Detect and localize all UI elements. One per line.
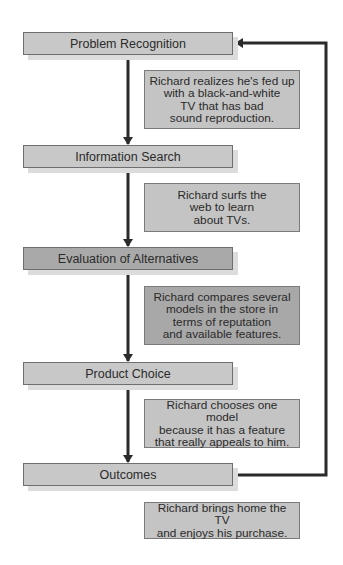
description-product-choice: Richard chooses one model because it has… bbox=[144, 399, 300, 448]
step-problem-recognition: Problem Recognition bbox=[23, 32, 233, 55]
step-information-search: Information Search bbox=[23, 145, 233, 168]
description-outcomes: Richard brings home the TV and enjoys hi… bbox=[144, 502, 300, 539]
description-problem-recognition: Richard realizes he's fed up with a blac… bbox=[144, 70, 300, 129]
description-information-search: Richard surfs the web to learn about TVs… bbox=[144, 183, 300, 232]
step-evaluation-of-alternatives: Evaluation of Alternatives bbox=[23, 247, 233, 270]
step-outcomes: Outcomes bbox=[23, 463, 233, 486]
step-label: Evaluation of Alternatives bbox=[58, 252, 198, 266]
step-label: Outcomes bbox=[100, 468, 157, 482]
step-product-choice: Product Choice bbox=[23, 362, 233, 385]
description-text: Richard surfs the web to learn about TVs… bbox=[177, 189, 266, 226]
description-evaluation-of-alternatives: Richard compares several models in the s… bbox=[144, 286, 300, 345]
description-text: Richard brings home the TV and enjoys hi… bbox=[149, 502, 295, 539]
step-label: Problem Recognition bbox=[70, 37, 186, 51]
step-label: Information Search bbox=[75, 150, 181, 164]
description-text: Richard compares several models in the s… bbox=[153, 291, 290, 340]
description-text: Richard chooses one model because it has… bbox=[149, 399, 295, 448]
step-label: Product Choice bbox=[85, 367, 170, 381]
description-text: Richard realizes he's fed up with a blac… bbox=[149, 75, 294, 124]
